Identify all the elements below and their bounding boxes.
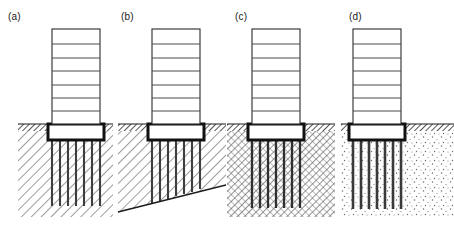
pile-group-b	[152, 140, 200, 204]
soil-mass-d	[341, 131, 454, 217]
panel-d-drawing	[341, 0, 454, 239]
pile-group-a	[52, 140, 100, 206]
soil-mass-c	[227, 131, 335, 217]
pile-group-d	[353, 140, 401, 209]
pile-cap-d	[349, 124, 405, 140]
panel-c-drawing	[227, 0, 340, 239]
panel-a-drawing	[0, 0, 113, 239]
pile-cap-a	[48, 124, 104, 140]
panel-a: (a)	[0, 0, 113, 239]
pile-cap-b	[148, 124, 204, 140]
pile-foundation-figure: (a)	[0, 0, 454, 239]
soil-mass-b	[118, 131, 226, 212]
panel-c: (c)	[227, 0, 340, 239]
pile-group-c	[252, 140, 300, 208]
pile-cap-c	[248, 124, 304, 140]
soil-mass-a	[18, 131, 113, 217]
superstructure-c	[252, 29, 300, 124]
panel-b-drawing	[113, 0, 226, 239]
superstructure-d	[353, 29, 401, 124]
superstructure-b	[152, 29, 200, 124]
panel-b: (b)	[113, 0, 226, 239]
superstructure-a	[52, 29, 100, 124]
panel-d: (d)	[341, 0, 454, 239]
